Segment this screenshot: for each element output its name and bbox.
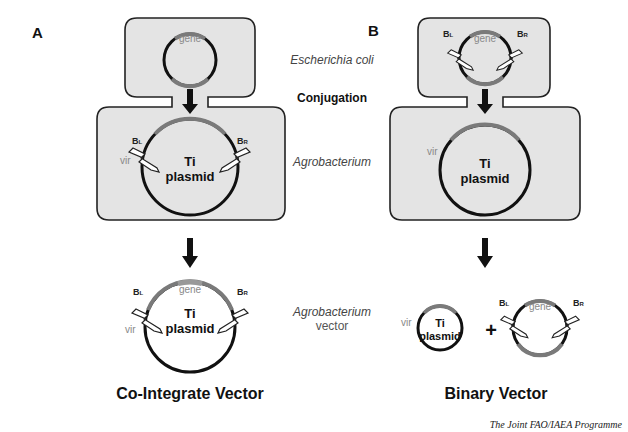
title-binary-vector: Binary Vector — [444, 385, 547, 402]
bl-label: BL — [499, 298, 510, 308]
diagram-canvas: A B gene Ti plasmid vir BL BR gene BL BR — [0, 0, 628, 432]
ti-label: Ti — [435, 317, 445, 329]
backbone-segment — [518, 344, 562, 355]
br-label: BR — [237, 287, 249, 297]
vir-label: vir — [120, 155, 131, 166]
down-arrow-a — [182, 238, 198, 268]
br-label: BR — [573, 298, 585, 308]
label-agrobacterium-vector-1: Agrobacterium — [292, 305, 371, 319]
label-agrobacterium: Agrobacterium — [292, 155, 371, 169]
ti-label: Ti — [184, 154, 195, 169]
label-escherichia-coli: Escherichia coli — [290, 53, 374, 67]
vir-label: vir — [427, 146, 438, 157]
binary-vector-plasmid: gene BL BR — [499, 298, 585, 355]
vir-label: vir — [125, 324, 136, 335]
plus-sign: + — [485, 319, 497, 341]
credit-text: The Joint FAO/IAEA Programme — [490, 419, 623, 430]
binary-ti-plasmid: Ti plasmid vir — [401, 306, 462, 350]
plasmid-label: plasmid — [419, 330, 461, 342]
label-agrobacterium-vector-2: vector — [316, 319, 349, 333]
ti-label: Ti — [184, 306, 195, 321]
panel-label-a: A — [32, 24, 43, 41]
gene-label: gene — [179, 284, 202, 295]
plasmid-label: plasmid — [165, 321, 214, 336]
plasmid-label: plasmid — [165, 169, 214, 184]
ti-label: Ti — [479, 156, 490, 171]
cell-b-ecoli-agrobacterium — [390, 18, 580, 220]
vir-label: vir — [401, 317, 412, 328]
label-conjugation: Conjugation — [297, 91, 367, 105]
down-arrow-b — [477, 238, 493, 268]
title-cointegrate-vector: Co-Integrate Vector — [116, 385, 264, 402]
plasmid-label: plasmid — [460, 171, 509, 186]
gene-label: gene — [179, 33, 202, 44]
gene-label: gene — [529, 301, 552, 312]
bl-label: BL — [133, 287, 144, 297]
cointegrate-vector: gene Ti plasmid vir BL BR — [125, 281, 249, 372]
panel-label-b: B — [368, 22, 379, 39]
gene-label: gene — [474, 33, 497, 44]
t-dna-segment — [424, 306, 456, 313]
